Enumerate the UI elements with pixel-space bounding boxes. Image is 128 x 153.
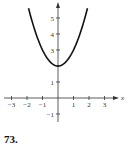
parabola-plot: −3−2−1123−11345 x [0,0,128,125]
y-tick-label: 5 [51,15,55,23]
x-tick-label: −3 [8,101,16,109]
x-tick-label: 1 [72,101,76,109]
problem-number: 73. [4,133,18,145]
y-axis-arrow-icon [56,2,60,8]
axes [4,2,119,122]
x-tick-label: 2 [87,101,91,109]
x-tick-label: −2 [23,101,31,109]
x-tick-label: −1 [39,101,47,109]
x-axis-arrow-icon [113,96,119,100]
x-tick-label: 3 [103,101,107,109]
y-tick-label: 3 [51,47,55,55]
y-tick-label: −1 [47,111,55,119]
y-tick-label: 1 [51,79,55,87]
y-tick-label: 4 [51,31,55,39]
x-axis-label: x [120,94,125,102]
